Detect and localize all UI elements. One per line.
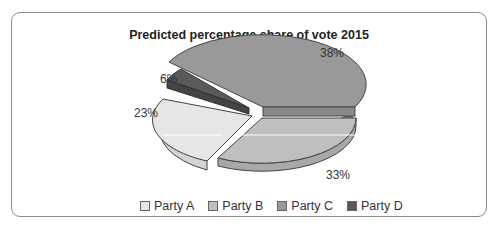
legend-item-party-d: Party D (347, 199, 403, 213)
legend-label: Party B (222, 199, 263, 213)
legend-label: Party A (154, 199, 194, 213)
legend-label: Party C (291, 199, 333, 213)
label-party-d: 6% (160, 72, 177, 86)
legend-label: Party D (361, 199, 403, 213)
pie-chart (0, 0, 498, 231)
swatch-icon (347, 201, 357, 211)
label-party-a: 23% (134, 106, 158, 120)
swatch-icon (208, 201, 218, 211)
chart-legend: Party A Party B Party C Party D (140, 199, 403, 213)
label-party-b: 33% (326, 168, 350, 182)
swatch-icon (140, 201, 150, 211)
legend-item-party-b: Party B (208, 199, 263, 213)
legend-item-party-c: Party C (277, 199, 333, 213)
legend-item-party-a: Party A (140, 199, 194, 213)
swatch-icon (277, 201, 287, 211)
label-party-c: 38% (320, 46, 344, 60)
